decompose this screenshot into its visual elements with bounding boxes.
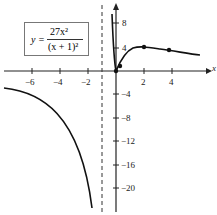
y-tick-label: −8 bbox=[121, 114, 131, 123]
y-tick-label: −20 bbox=[121, 184, 135, 193]
x-tick-label: −4 bbox=[53, 78, 63, 87]
x-axis-label: x bbox=[212, 64, 216, 73]
x-tick-label: 2 bbox=[141, 78, 146, 87]
equation-numerator: 27x² bbox=[50, 26, 68, 37]
x-tick-label: −2 bbox=[81, 78, 91, 87]
y-tick-label: −12 bbox=[121, 137, 135, 146]
x-tick-label: −6 bbox=[25, 78, 35, 87]
equation-box: y = 27x² (x + 1)² bbox=[24, 22, 89, 56]
equation-lhs: y = bbox=[31, 34, 45, 45]
y-tick-label: 4 bbox=[122, 44, 127, 53]
y-tick-label: −4 bbox=[121, 90, 131, 99]
equation-denominator: (x + 1)² bbox=[48, 41, 78, 52]
y-tick-label: −16 bbox=[121, 161, 135, 170]
x-tick-label: 4 bbox=[169, 78, 174, 87]
fraction-bar bbox=[47, 39, 83, 40]
y-tick-label: 8 bbox=[122, 19, 127, 28]
